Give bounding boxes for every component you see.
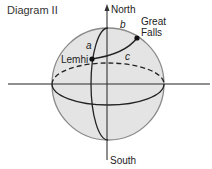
south-label: South (110, 155, 136, 166)
great-falls-label-line1: Great (141, 16, 166, 27)
arc-a-label: a (86, 40, 92, 51)
north-arrow-icon (105, 4, 110, 11)
great-falls-label-line2: Falls (141, 27, 162, 38)
arc-c-label: c (125, 51, 130, 62)
sphere-diagram: North South Lemhi Great Falls a b c (0, 0, 212, 169)
arc-b-label: b (120, 19, 126, 30)
lemhi-label: Lemhi (61, 54, 88, 65)
north-label: North (111, 4, 135, 15)
great-falls-point (134, 35, 139, 40)
lemhi-point (89, 56, 94, 61)
